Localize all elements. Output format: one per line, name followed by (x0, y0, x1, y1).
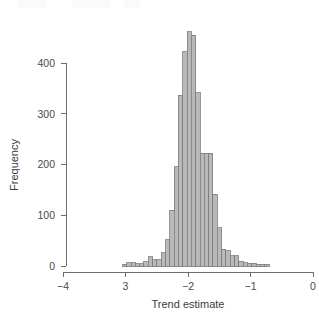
histogram-bar (127, 263, 131, 267)
x-tick-label: 3 (123, 280, 129, 292)
histogram-bar (196, 93, 200, 267)
histogram-bar (252, 263, 256, 266)
x-tick-label: 0 (310, 280, 316, 292)
x-tick-label: −4 (57, 280, 69, 292)
histogram-bars (122, 32, 269, 267)
y-tick-label: 300 (37, 108, 55, 120)
histogram-bar (209, 153, 213, 266)
histogram-bar (135, 264, 139, 267)
histogram-bar (265, 264, 269, 266)
histogram-bar (170, 210, 174, 266)
histogram-bar (144, 262, 148, 267)
histogram-bar (200, 153, 204, 266)
histogram-bar (204, 153, 208, 266)
histogram-bar (122, 264, 126, 266)
histogram-bar (140, 264, 144, 267)
x-tick-label: −2 (182, 280, 194, 292)
histogram-bar (178, 95, 182, 266)
histogram-bar (187, 32, 191, 267)
histogram-bar (153, 260, 157, 267)
histogram-bar (191, 35, 195, 266)
histogram-bar (222, 249, 226, 266)
histogram-bar (131, 263, 135, 267)
histogram-bar (260, 264, 264, 266)
histogram-bar (213, 194, 217, 266)
histogram-bar (174, 167, 178, 267)
y-axis-ticks: 0100200300400 (37, 57, 66, 272)
histogram-bar (256, 264, 260, 266)
histogram-bar (166, 240, 170, 267)
x-tick-label: −1 (245, 280, 257, 292)
histogram-bar (157, 260, 161, 267)
histogram-bar (243, 263, 247, 267)
histogram-figure: −43−2−10 0100200300400 Trend estimate Fr… (0, 0, 319, 316)
y-axis-title: Frequency (8, 139, 20, 191)
x-axis-ticks: −43−2−10 (57, 272, 316, 292)
histogram-bar (239, 261, 243, 266)
histogram-bar (230, 256, 234, 267)
histogram-bar (226, 251, 230, 267)
histogram-bar (217, 228, 221, 267)
histogram-bar (235, 256, 239, 267)
y-tick-label: 200 (37, 158, 55, 170)
histogram-plot: −43−2−10 0100200300400 Trend estimate Fr… (0, 0, 319, 316)
y-tick-label: 400 (37, 57, 55, 69)
histogram-bar (148, 257, 152, 267)
x-axis-title: Trend estimate (152, 298, 225, 310)
histogram-bar (183, 52, 187, 267)
histogram-bar (161, 253, 165, 267)
y-tick-label: 100 (37, 209, 55, 221)
histogram-bar (247, 263, 251, 266)
y-tick-label: 0 (49, 260, 55, 272)
